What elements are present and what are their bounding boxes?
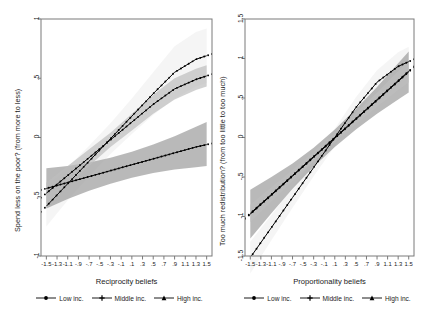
legend-marker-plus-icon: [299, 294, 321, 302]
legend-entry: High inc.: [361, 294, 411, 302]
y-tick-label: 1: [33, 9, 40, 27]
panel-left: Spend less on the poor? (from more to le…: [0, 0, 218, 317]
y-tick-label: .5: [237, 88, 244, 106]
legend-entry: Middle inc.: [91, 294, 147, 302]
series-middle-inc: [244, 65, 415, 219]
y-tick-label: 1.5: [237, 9, 244, 27]
y-tick-label: 0: [33, 128, 40, 146]
legend-entry: Low inc.: [35, 294, 83, 302]
legend-label: High inc.: [177, 295, 203, 302]
legend-label: High inc.: [385, 295, 411, 302]
panel-right: Too much redistribution? (from too littl…: [218, 0, 437, 317]
legend-marker-triangle-icon: [153, 294, 175, 302]
y-tick-label: -.5: [237, 167, 244, 185]
legend-marker-circle-icon: [243, 294, 265, 302]
y-tick-label: 1: [237, 49, 244, 67]
legend-marker-plus-icon: [91, 294, 113, 302]
y-tick-label: -.5: [33, 187, 40, 205]
legend-label: Low inc.: [59, 295, 83, 302]
plot-area-right: [218, 0, 437, 317]
legend-marker-circle-icon: [35, 294, 57, 302]
plot-area-left: [0, 0, 218, 317]
legend-entry: High inc.: [153, 294, 203, 302]
y-tick-label: 0: [237, 128, 244, 146]
x-axis-label-left: Reciprocity beliefs: [41, 277, 212, 286]
legend-marker-triangle-icon: [361, 294, 383, 302]
legend-label: Middle inc.: [115, 295, 147, 302]
legend-entry: Low inc.: [243, 294, 291, 302]
figure-root: Spend less on the poor? (from more to le…: [0, 0, 437, 317]
legend-right: Low inc.Middle inc.High inc.: [228, 294, 426, 302]
legend-label: Middle inc.: [323, 295, 355, 302]
x-axis-label-right: Proportionality beliefs: [245, 277, 414, 286]
x-tick-label: 1.5: [402, 261, 416, 267]
y-tick-label: -1: [237, 207, 244, 225]
y-tick-label: .5: [33, 68, 40, 86]
x-tick-label: 1.5: [200, 261, 214, 267]
legend-left: Low inc.Middle inc.High inc.: [24, 294, 214, 302]
legend-label: Low inc.: [267, 295, 291, 302]
legend-entry: Middle inc.: [299, 294, 355, 302]
